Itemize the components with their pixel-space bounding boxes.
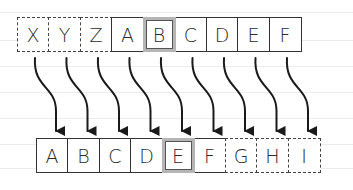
top-cell-y: Y <box>48 17 81 52</box>
top-cell-e: E <box>237 17 270 52</box>
mapping-arrow <box>287 58 308 131</box>
bottom-cell-e: E <box>162 138 195 173</box>
bottom-cell-f: F <box>193 138 226 173</box>
mapping-arrow <box>161 58 182 131</box>
top-cell-d: D <box>206 17 239 52</box>
mapping-arrow <box>192 58 213 131</box>
top-cell-f: F <box>269 17 302 52</box>
bottom-cell-b: B <box>67 138 100 173</box>
bottom-cell-i: I <box>288 138 321 173</box>
mapping-arrow <box>224 58 245 131</box>
top-cell-x: X <box>17 17 50 52</box>
top-cell-b: B <box>143 17 176 52</box>
mapping-arrow <box>255 58 276 131</box>
bottom-cell-c: C <box>99 138 132 173</box>
top-cell-c: C <box>174 17 207 52</box>
top-cell-a: A <box>111 17 144 52</box>
mapping-arrow <box>129 58 150 131</box>
ciphertext-row: ABCDEFGHI <box>37 138 321 173</box>
bottom-cell-d: D <box>130 138 163 173</box>
bottom-cell-g: G <box>225 138 258 173</box>
bottom-cell-h: H <box>256 138 289 173</box>
bottom-cell-a: A <box>36 138 69 173</box>
plaintext-row: XYZABCDEF <box>18 17 302 52</box>
top-cell-z: Z <box>80 17 113 52</box>
mapping-arrow <box>66 58 87 131</box>
mapping-arrow <box>35 58 56 131</box>
mapping-arrow <box>98 58 119 131</box>
